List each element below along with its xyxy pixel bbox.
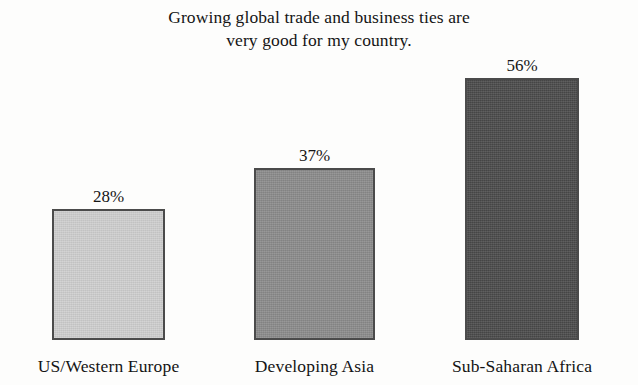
bar-group-sub-saharan-africa: 56% Sub-Saharan Africa xyxy=(465,0,579,385)
bar-group-us-western-europe: 28% US/Western Europe xyxy=(52,0,165,385)
category-label-sub-saharan-africa: Sub-Saharan Africa xyxy=(452,356,592,377)
bar-group-developing-asia: 37% Developing Asia xyxy=(254,0,375,385)
plot-area: 28% US/Western Europe 37% Developing Asi… xyxy=(0,0,638,385)
bar-value-label: 28% xyxy=(52,188,165,205)
bar-developing-asia[interactable] xyxy=(254,168,375,340)
bar-sub-saharan-africa[interactable] xyxy=(465,78,579,340)
category-label-us-western-europe: US/Western Europe xyxy=(38,356,180,377)
bar-value-label: 37% xyxy=(254,147,375,164)
chart-figure: Growing global trade and business ties a… xyxy=(0,0,638,385)
bar-value-label: 56% xyxy=(465,57,579,74)
category-label-developing-asia: Developing Asia xyxy=(255,356,374,377)
bar-us-western-europe[interactable] xyxy=(52,209,165,340)
